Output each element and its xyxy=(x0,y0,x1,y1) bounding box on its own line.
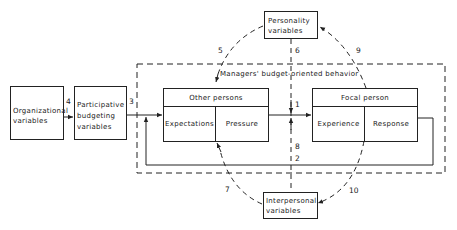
node-label: Interpersonal xyxy=(266,197,317,206)
edge-label-8: 8 xyxy=(295,142,300,151)
node-label: budgeting xyxy=(77,112,115,121)
edge-label-5: 5 xyxy=(218,46,223,55)
edge-label-3: 3 xyxy=(129,97,134,106)
group-label: Managers' budget-oriented behavior xyxy=(220,70,358,79)
node-label: Participative xyxy=(77,101,124,110)
edge-label-10: 10 xyxy=(349,186,359,195)
expectations-cell: Expectations xyxy=(164,107,216,141)
node-label: Organizational xyxy=(13,107,68,116)
node-other-persons: Other persons Expectations Pressure xyxy=(163,88,269,142)
node-personality-variables: Personality variables xyxy=(264,11,318,39)
node-label: variables xyxy=(77,123,112,132)
other-persons-header: Other persons xyxy=(164,89,268,107)
pressure-cell: Pressure xyxy=(216,107,268,141)
focal-person-header: Focal person xyxy=(313,89,417,107)
edge-label-2: 2 xyxy=(295,154,300,163)
node-label: variables xyxy=(268,27,303,36)
edge-label-1: 1 xyxy=(295,100,300,109)
edge-label-6: 6 xyxy=(295,46,300,55)
node-label: Personality xyxy=(268,17,310,26)
node-interpersonal-variables: Interpersonal variables xyxy=(263,192,318,219)
node-label: variables xyxy=(13,117,48,126)
edge-label-9: 9 xyxy=(356,46,361,55)
node-participative-budgeting-variables: Participative budgeting variables xyxy=(74,86,127,140)
edge-label-4: 4 xyxy=(66,97,71,106)
response-cell: Response xyxy=(365,107,417,141)
experience-cell: Experience xyxy=(313,107,365,141)
node-label: variables xyxy=(266,207,301,216)
node-organizational-variables: Organizational variables xyxy=(10,86,64,140)
edge-label-7: 7 xyxy=(225,185,230,194)
node-focal-person: Focal person Experience Response xyxy=(312,88,418,142)
